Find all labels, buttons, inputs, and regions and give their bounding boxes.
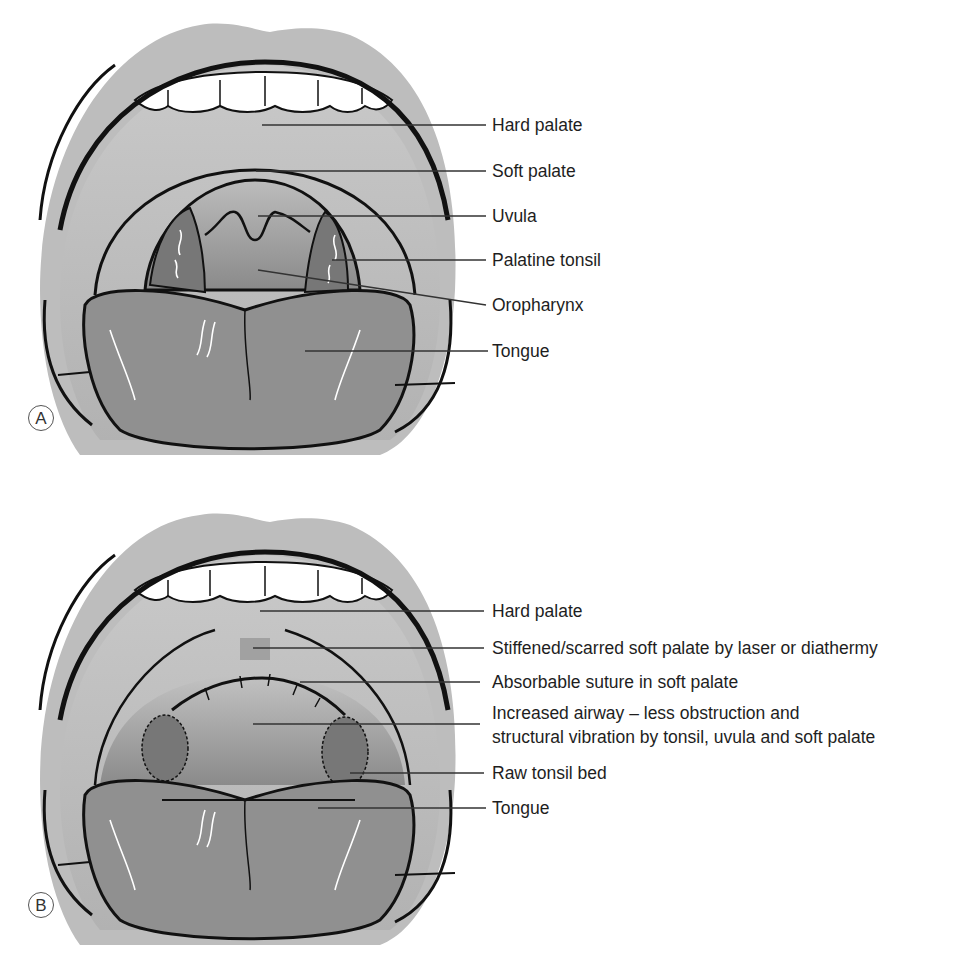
label-tongue: Tongue bbox=[492, 341, 549, 362]
label-raw-tonsil-bed: Raw tonsil bed bbox=[492, 763, 607, 784]
tongue bbox=[84, 781, 414, 939]
label-oropharynx: Oropharynx bbox=[492, 295, 583, 316]
mouth-diagram-normal bbox=[0, 0, 980, 470]
label-soft-palate: Soft palate bbox=[492, 161, 576, 182]
panel-a: A Hard palate Soft palate Uvula Palatine… bbox=[0, 0, 980, 470]
panel-b: B Hard palate Stiffened/scarred soft pal… bbox=[0, 480, 980, 960]
raw-tonsil-bed-left bbox=[142, 715, 188, 781]
panel-badge-a: A bbox=[28, 405, 54, 431]
mouth-diagram-post-surgery bbox=[0, 480, 980, 960]
raw-tonsil-bed-right bbox=[322, 717, 368, 787]
label-stiffened-soft-palate: Stiffened/scarred soft palate by laser o… bbox=[492, 638, 878, 659]
label-tongue: Tongue bbox=[492, 798, 549, 819]
scarred-soft-palate bbox=[240, 638, 270, 660]
label-hard-palate: Hard palate bbox=[492, 115, 582, 136]
label-palatine-tonsil: Palatine tonsil bbox=[492, 250, 601, 271]
label-uvula: Uvula bbox=[492, 206, 537, 227]
label-hard-palate: Hard palate bbox=[492, 601, 582, 622]
panel-badge-b: B bbox=[28, 892, 54, 918]
tongue bbox=[84, 291, 414, 449]
label-absorbable-suture: Absorbable suture in soft palate bbox=[492, 672, 738, 693]
label-increased-airway-line1: Increased airway – less obstruction and bbox=[492, 703, 799, 724]
label-increased-airway-line2: structural vibration by tonsil, uvula an… bbox=[492, 727, 875, 748]
